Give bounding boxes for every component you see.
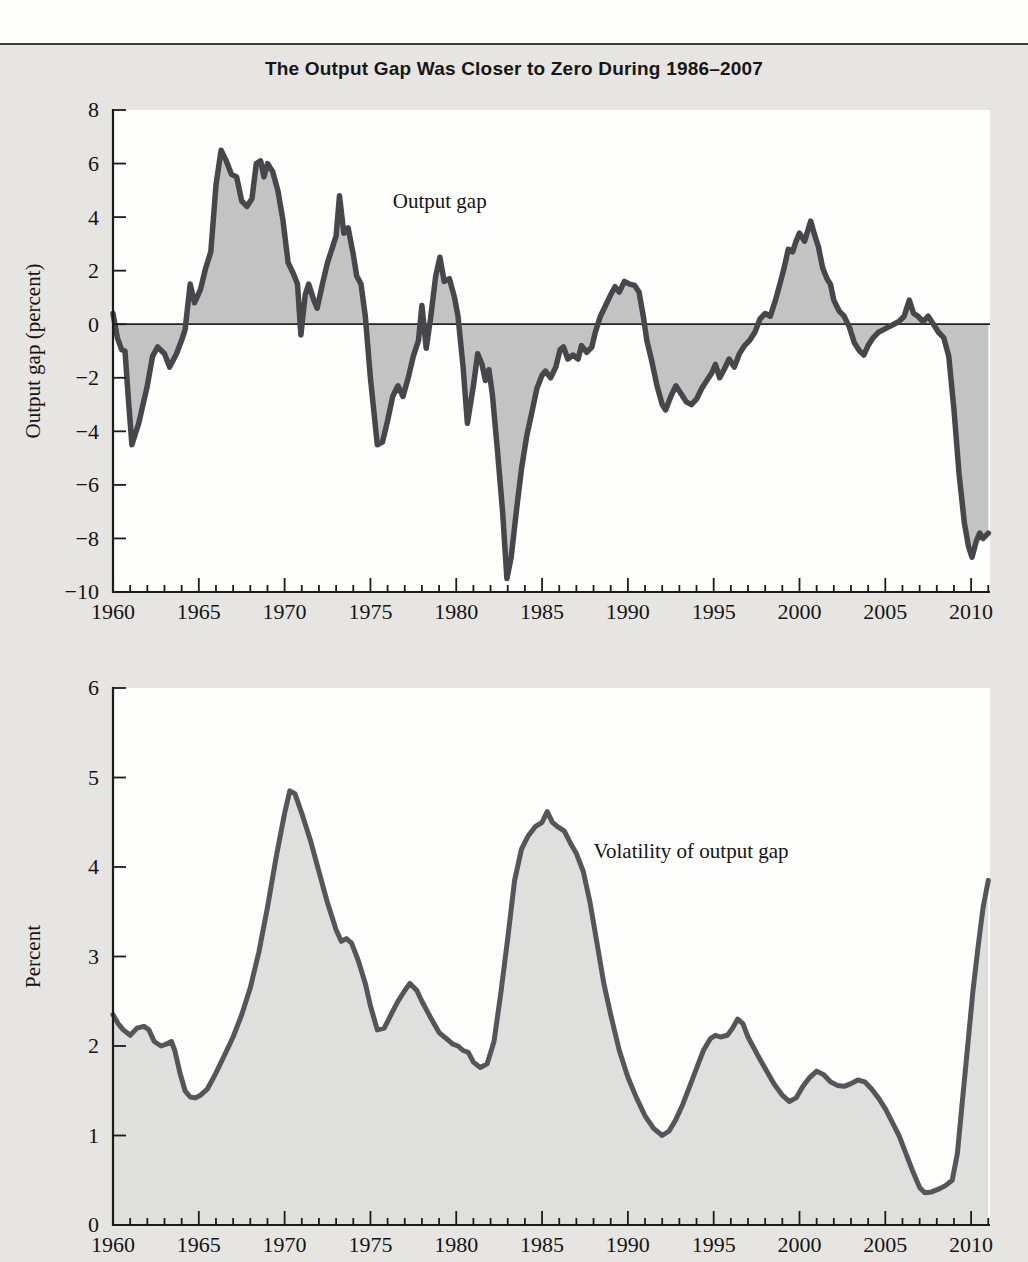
- svg-text:1985: 1985: [520, 599, 564, 624]
- svg-text:1965: 1965: [177, 599, 221, 624]
- svg-text:0: 0: [88, 312, 99, 337]
- svg-text:1980: 1980: [434, 599, 478, 624]
- svg-text:1990: 1990: [606, 599, 650, 624]
- svg-text:2005: 2005: [863, 599, 907, 624]
- svg-text:−8: −8: [76, 526, 99, 551]
- svg-text:4: 4: [88, 205, 99, 230]
- output-gap-chart: 1960196519701975198019851990199520002005…: [21, 97, 993, 624]
- svg-text:1970: 1970: [263, 599, 307, 624]
- svg-text:1980: 1980: [434, 1232, 478, 1257]
- svg-text:1995: 1995: [692, 599, 736, 624]
- svg-text:1975: 1975: [348, 1232, 392, 1257]
- svg-text:Output gap (percent): Output gap (percent): [21, 264, 45, 439]
- svg-text:2005: 2005: [863, 1232, 907, 1257]
- svg-text:−4: −4: [76, 419, 99, 444]
- volatility-chart: 1960196519701975198019851990199520002005…: [21, 675, 993, 1257]
- svg-text:1: 1: [88, 1123, 99, 1148]
- svg-text:Percent: Percent: [21, 925, 45, 988]
- svg-text:2010: 2010: [949, 599, 993, 624]
- svg-text:6: 6: [88, 151, 99, 176]
- svg-text:8: 8: [88, 97, 99, 122]
- svg-text:−2: −2: [76, 365, 99, 390]
- svg-text:Output gap: Output gap: [393, 189, 487, 213]
- svg-text:5: 5: [88, 765, 99, 790]
- svg-text:0: 0: [88, 1212, 99, 1237]
- svg-text:2010: 2010: [949, 1232, 993, 1257]
- svg-text:1975: 1975: [348, 599, 392, 624]
- svg-text:2: 2: [88, 258, 99, 283]
- charts-canvas: 1960196519701975198019851990199520002005…: [0, 0, 1028, 1262]
- svg-text:1985: 1985: [520, 1232, 564, 1257]
- svg-text:4: 4: [88, 854, 99, 879]
- svg-text:1995: 1995: [692, 1232, 736, 1257]
- svg-text:3: 3: [88, 944, 99, 969]
- svg-text:Volatility of output gap: Volatility of output gap: [594, 839, 789, 863]
- svg-text:1990: 1990: [606, 1232, 650, 1257]
- svg-text:6: 6: [88, 675, 99, 700]
- svg-text:1970: 1970: [263, 1232, 307, 1257]
- svg-text:−10: −10: [65, 579, 99, 604]
- book-page: The Output Gap Was Closer to Zero During…: [0, 0, 1028, 1262]
- svg-text:1965: 1965: [177, 1232, 221, 1257]
- svg-text:2: 2: [88, 1033, 99, 1058]
- svg-text:−6: −6: [76, 472, 99, 497]
- svg-text:2000: 2000: [777, 599, 821, 624]
- svg-text:2000: 2000: [777, 1232, 821, 1257]
